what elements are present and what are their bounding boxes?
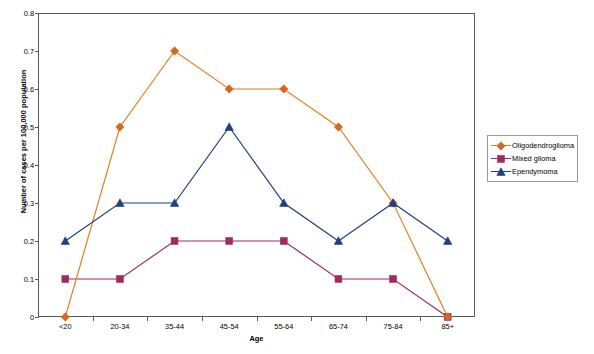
- x-tick-label: <20: [35, 322, 95, 331]
- x-tick-mark: [311, 317, 312, 321]
- y-tick-mark: [35, 317, 39, 318]
- legend-item-ependymoma[interactable]: Ependymoma: [490, 165, 574, 178]
- x-tick-label: 85+: [418, 322, 478, 331]
- y-tick-label: 0: [4, 313, 34, 322]
- legend-item-mixed-glioma[interactable]: Mixed glioma: [490, 152, 574, 165]
- y-tick-label: 0.5: [4, 123, 34, 132]
- legend-triangle-icon: [490, 166, 512, 177]
- x-tick-label: 20-34: [90, 322, 150, 331]
- y-tick-label: 0.1: [4, 275, 34, 284]
- chart-legend: OligodendrogliomaMixed gliomaEpendymoma: [487, 135, 578, 182]
- x-tick-mark: [420, 317, 421, 321]
- legend-label: Mixed glioma: [512, 153, 556, 164]
- x-tick-label: 75-84: [363, 322, 423, 331]
- x-tick-mark: [366, 317, 367, 321]
- y-tick-mark: [35, 127, 39, 128]
- y-tick-mark: [35, 165, 39, 166]
- plot-area: [38, 13, 475, 317]
- x-tick-mark: [202, 317, 203, 321]
- y-tick-label: 0.7: [4, 47, 34, 56]
- x-tick-mark: [93, 317, 94, 321]
- legend-label: Ependymoma: [512, 166, 558, 177]
- y-tick-mark: [35, 51, 39, 52]
- chart-figure: Number of cases per 100,000 population 0…: [0, 0, 594, 354]
- x-tick-mark: [257, 317, 258, 321]
- legend-diamond-icon: [490, 140, 512, 151]
- y-tick-mark: [35, 279, 39, 280]
- y-tick-mark: [35, 203, 39, 204]
- y-tick-label: 0.3: [4, 199, 34, 208]
- y-tick-label: 0.8: [4, 9, 34, 18]
- legend-label: Oligodendroglioma: [512, 140, 574, 151]
- x-tick-label: 35-44: [145, 322, 205, 331]
- y-tick-label: 0.2: [4, 237, 34, 246]
- legend-square-icon: [490, 153, 512, 164]
- x-tick-mark: [147, 317, 148, 321]
- x-tick-label: 55-64: [254, 322, 314, 331]
- x-axis-title: Age: [38, 334, 475, 343]
- y-tick-mark: [35, 13, 39, 14]
- y-tick-label: 0.4: [4, 161, 34, 170]
- y-tick-mark: [35, 89, 39, 90]
- x-tick-label: 45-54: [199, 322, 259, 331]
- y-tick-mark: [35, 241, 39, 242]
- y-tick-label: 0.6: [4, 85, 34, 94]
- x-tick-label: 65-74: [308, 322, 368, 331]
- legend-item-oligodendroglioma[interactable]: Oligodendroglioma: [490, 139, 574, 152]
